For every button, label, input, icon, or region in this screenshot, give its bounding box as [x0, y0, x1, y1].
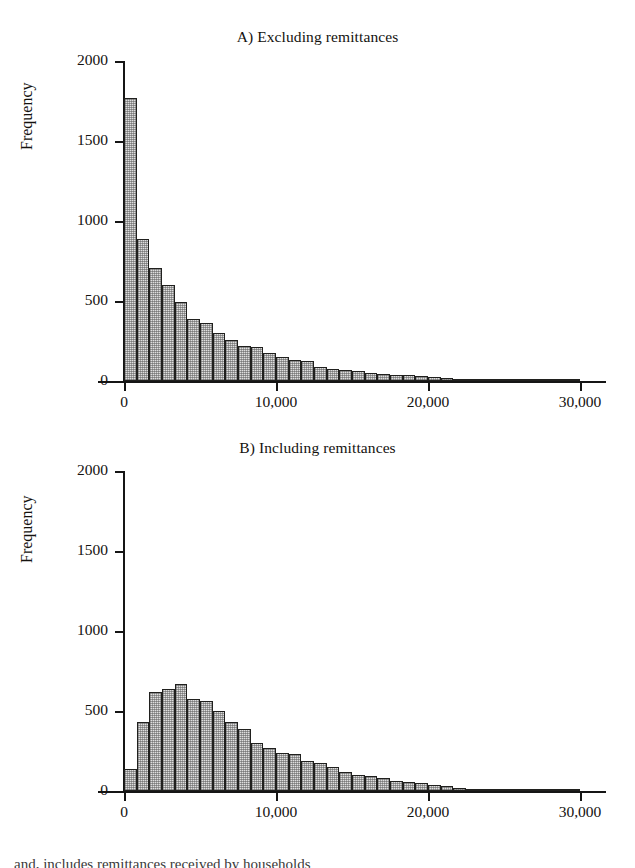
histogram-bar [567, 379, 580, 381]
histogram-bar [352, 371, 365, 381]
histogram-bar [124, 769, 137, 791]
histogram-bar [466, 379, 479, 381]
histogram-bar [517, 379, 530, 381]
panel-b-including-remittances: B) Including remittances Frequency 05001… [0, 415, 635, 835]
y-axis-tick-label: 0 [100, 781, 108, 799]
figure-footnote: and, includes remittances received by ho… [14, 855, 624, 868]
histogram-bar [339, 370, 352, 381]
panel-a-plot-area: 0500100015002000010,00020,00030,000 [124, 61, 580, 381]
histogram-bar [238, 346, 251, 381]
y-axis-tick: 500 [115, 711, 124, 713]
panel-a-bars [124, 61, 580, 382]
histogram-bar [542, 379, 555, 381]
y-axis-tick-label: 500 [85, 701, 108, 719]
histogram-bar [479, 379, 492, 381]
x-axis-tick-label: 0 [120, 803, 128, 821]
histogram-bar [263, 353, 276, 381]
histogram-bar [137, 722, 150, 791]
histogram-bar [200, 701, 213, 791]
y-axis-tick: 0 [115, 791, 124, 793]
x-axis-tick-label: 0 [120, 393, 128, 411]
x-axis-tick [124, 791, 126, 801]
histogram-bar [276, 753, 289, 791]
histogram-bar [441, 786, 454, 791]
histogram-bar [441, 378, 454, 381]
x-axis-tick [428, 791, 430, 801]
histogram-bar [529, 789, 542, 791]
histogram-figure: A) Excluding remittances Frequency 05001… [0, 0, 635, 868]
histogram-bar [466, 789, 479, 791]
y-axis-tick: 1000 [115, 221, 124, 223]
panel-b-bars [124, 471, 580, 792]
y-axis-tick-label: 1000 [77, 621, 108, 639]
panel-b-title: B) Including remittances [0, 439, 635, 457]
histogram-bar [225, 340, 238, 381]
x-axis-tick-label: 20,000 [407, 393, 450, 411]
histogram-bar [289, 754, 302, 791]
histogram-bar [263, 748, 276, 791]
x-axis-tick [276, 381, 278, 391]
histogram-bar [529, 379, 542, 381]
histogram-bar [390, 375, 403, 381]
panel-b-plot-area: 0500100015002000010,00020,00030,000 [124, 471, 580, 791]
panel-a-excluding-remittances: A) Excluding remittances Frequency 05001… [0, 0, 635, 420]
histogram-bar [327, 767, 340, 791]
x-axis-tick [428, 381, 430, 391]
x-axis-tick [276, 791, 278, 801]
y-axis-tick: 2000 [115, 471, 124, 473]
histogram-bar [479, 789, 492, 791]
histogram-bar [238, 729, 251, 791]
x-axis-tick-label: 30,000 [559, 803, 602, 821]
histogram-bar [314, 763, 327, 791]
histogram-bar [327, 369, 340, 381]
histogram-bar [251, 347, 264, 381]
histogram-bar [175, 684, 188, 791]
histogram-bar [289, 360, 302, 381]
histogram-bar [403, 782, 416, 791]
x-axis-tick [580, 791, 582, 801]
histogram-bar [504, 789, 517, 791]
x-axis-tick [580, 381, 582, 391]
histogram-bar [225, 722, 238, 791]
histogram-bar [200, 323, 213, 381]
histogram-bar [415, 783, 428, 791]
histogram-bar [453, 788, 466, 791]
x-axis-tick-label: 10,000 [255, 393, 298, 411]
histogram-bar [390, 781, 403, 791]
histogram-bar [149, 692, 162, 791]
histogram-bar [149, 268, 162, 381]
y-axis-tick-label: 1500 [77, 131, 108, 149]
histogram-bar [301, 761, 314, 791]
histogram-bar [377, 778, 390, 791]
y-axis-tick: 1000 [115, 631, 124, 633]
panel-b-y-axis-title: Frequency [18, 495, 36, 563]
panel-a-title: A) Excluding remittances [0, 28, 635, 46]
y-axis-tick-label: 500 [85, 291, 108, 309]
histogram-bar [542, 789, 555, 791]
histogram-bar [365, 373, 378, 381]
histogram-bar [554, 379, 567, 381]
histogram-bar [377, 374, 390, 381]
panel-a-y-axis-title: Frequency [18, 82, 36, 150]
histogram-bar [162, 285, 175, 381]
histogram-bar [187, 319, 200, 381]
histogram-bar [213, 333, 226, 381]
y-axis-tick: 500 [115, 301, 124, 303]
x-axis-tick [124, 381, 126, 391]
histogram-bar [301, 361, 314, 381]
histogram-bar [415, 376, 428, 381]
histogram-bar [339, 772, 352, 791]
x-axis-tick-label: 20,000 [407, 803, 450, 821]
histogram-bar [504, 379, 517, 381]
histogram-bar [137, 239, 150, 381]
x-axis-tick-label: 30,000 [559, 393, 602, 411]
y-axis-tick: 1500 [115, 141, 124, 143]
y-axis-tick-label: 2000 [77, 461, 108, 479]
y-axis-tick-label: 1000 [77, 211, 108, 229]
histogram-bar [187, 699, 200, 791]
histogram-bar [162, 689, 175, 791]
y-axis-tick-label: 1500 [77, 541, 108, 559]
histogram-bar [567, 789, 580, 791]
y-axis-tick-label: 0 [100, 371, 108, 389]
x-axis-tick-label: 10,000 [255, 803, 298, 821]
